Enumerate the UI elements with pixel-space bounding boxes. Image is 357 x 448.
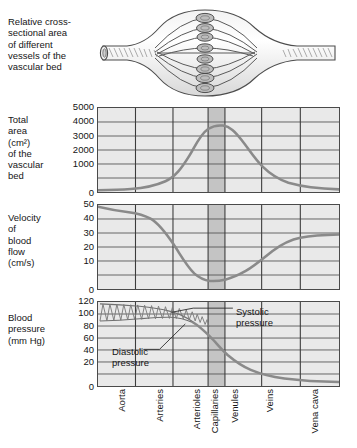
velocity-ytick: 40 bbox=[83, 214, 94, 224]
pressure-ytick: 60 bbox=[83, 333, 94, 343]
pressure-ytick: 40 bbox=[83, 345, 94, 355]
velocity-ytick: 50 bbox=[83, 199, 94, 209]
velocity-chart: 50 40 30 20 10 0 bbox=[97, 204, 340, 290]
pressure-ytick: 100 bbox=[78, 309, 94, 319]
illustration-caption: Relative cross- sectional area of differ… bbox=[8, 16, 90, 72]
x-axis-labels: Aorta Arteries Arterioles Capillaries Ve… bbox=[97, 389, 340, 447]
velocity-ytick: 0 bbox=[89, 285, 94, 295]
x-label-arterioles: Arterioles bbox=[192, 389, 202, 429]
x-label-arteries: Arteries bbox=[155, 389, 165, 422]
vascular-bed-diagram bbox=[97, 4, 341, 100]
area-ytick: 1000 bbox=[73, 160, 94, 170]
x-label-capillaries: Capillaries bbox=[210, 389, 220, 433]
blood-pressure-plot-area: Systolic pressure Diastolic pressure bbox=[97, 301, 340, 387]
total-area-chart: 5000 4000 3000 2000 1000 0 bbox=[97, 107, 340, 193]
total-area-plot-area bbox=[97, 107, 340, 193]
velocity-ytick: 30 bbox=[83, 228, 94, 238]
pressure-ytick: 0 bbox=[89, 382, 94, 392]
area-ytick: 4000 bbox=[73, 117, 94, 127]
area-ytick: 2000 bbox=[73, 145, 94, 155]
x-label-aorta: Aorta bbox=[117, 389, 127, 412]
area-ytick: 5000 bbox=[73, 102, 94, 112]
area-ytick: 0 bbox=[89, 188, 94, 198]
area-ytick: 3000 bbox=[73, 131, 94, 141]
pressure-ytick: 120 bbox=[78, 296, 94, 306]
blood-pressure-chart: Systolic pressure Diastolic pressure 120… bbox=[97, 301, 340, 387]
diastolic-leader-line bbox=[144, 324, 186, 349]
x-label-vena-cava: Vena cava bbox=[310, 389, 320, 433]
velocity-ytick: 10 bbox=[83, 257, 94, 267]
velocity-caption: Velocity of blood flow (cm/s) bbox=[8, 212, 94, 268]
velocity-ytick: 20 bbox=[83, 242, 94, 252]
pressure-ytick: 80 bbox=[83, 321, 94, 331]
x-label-venules: Venules bbox=[230, 389, 240, 423]
x-label-veins: Veins bbox=[265, 389, 275, 412]
velocity-plot-area bbox=[97, 204, 340, 290]
vascular-bed-figure: Relative cross- sectional area of differ… bbox=[0, 0, 357, 448]
pressure-ytick: 20 bbox=[83, 358, 94, 368]
